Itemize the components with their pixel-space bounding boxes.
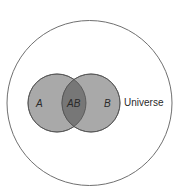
venn-diagram: A AB B Universe — [0, 0, 179, 194]
universe-label: Universe — [124, 97, 164, 108]
set-b-label: B — [104, 98, 111, 109]
set-a-label: A — [35, 98, 43, 109]
intersection-label: AB — [66, 98, 81, 109]
